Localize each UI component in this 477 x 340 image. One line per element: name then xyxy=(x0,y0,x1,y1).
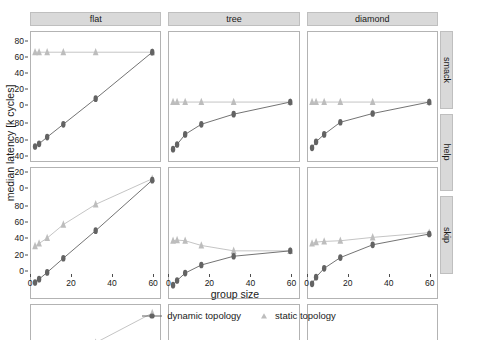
y-tick-mark xyxy=(25,171,28,172)
data-point-dynamic xyxy=(37,276,41,283)
y-tick-mark xyxy=(25,73,28,74)
data-point-dynamic xyxy=(175,277,179,284)
data-point-dynamic xyxy=(232,111,236,118)
chart-figure: median latency [k cycles] flat tree diam… xyxy=(0,0,477,340)
series-line-static xyxy=(35,179,152,246)
series-line-static xyxy=(173,240,290,251)
data-point-static xyxy=(44,48,50,55)
data-point-dynamic xyxy=(175,141,179,148)
data-point-static xyxy=(36,48,42,55)
y-tick-mark xyxy=(25,254,28,255)
data-point-static xyxy=(313,98,319,105)
y-tick-mark xyxy=(25,270,28,271)
legend-item-static: static topology xyxy=(257,310,336,321)
data-point-dynamic xyxy=(93,95,97,102)
data-point-dynamic xyxy=(370,110,374,117)
y-tick-mark xyxy=(25,238,28,239)
panel-tree-smack xyxy=(168,31,299,162)
y-tick-mark xyxy=(25,89,28,90)
panel-tree-help xyxy=(168,167,299,298)
data-point-dynamic xyxy=(322,131,326,138)
data-point-dynamic xyxy=(370,242,374,249)
data-point-dynamic xyxy=(427,231,431,238)
legend-key-circle-icon xyxy=(141,311,163,321)
chart-legend: dynamic topology static topology xyxy=(0,310,477,321)
data-point-dynamic xyxy=(171,146,175,153)
y-tick-mark xyxy=(25,139,28,140)
data-point-dynamic xyxy=(338,119,342,126)
data-point-static xyxy=(175,236,181,243)
series-line-dynamic xyxy=(312,102,429,148)
data-point-dynamic xyxy=(288,248,292,255)
y-tick-label: 0 xyxy=(19,100,24,110)
y-tick-mark xyxy=(25,105,28,106)
y-tick-mark xyxy=(25,56,28,57)
legend-label-dynamic: dynamic topology xyxy=(167,310,241,321)
row-strip-label: smack xyxy=(442,57,452,83)
data-point-dynamic xyxy=(33,143,37,150)
data-point-dynamic xyxy=(314,138,318,145)
data-point-dynamic xyxy=(61,121,65,128)
column-strip-label: diamond xyxy=(355,14,390,24)
y-tick-mark xyxy=(25,188,28,189)
x-axis-title: group size xyxy=(30,288,440,300)
column-strip-diamond: diamond xyxy=(307,12,438,26)
y-tick-mark xyxy=(25,123,28,124)
data-point-static xyxy=(36,239,42,246)
series-line-static xyxy=(312,233,429,244)
data-point-dynamic xyxy=(45,134,49,141)
data-point-static xyxy=(93,48,99,55)
row-strip-skip: skip xyxy=(440,196,453,274)
y-tick-mark xyxy=(25,222,28,223)
panel-diamond-help xyxy=(307,167,438,298)
data-point-static xyxy=(60,48,66,55)
y-axis-title-text: median latency [k cycles] xyxy=(4,84,16,201)
data-point-dynamic xyxy=(338,255,342,262)
data-point-dynamic xyxy=(150,49,154,56)
data-point-dynamic xyxy=(45,269,49,276)
data-point-dynamic xyxy=(150,177,154,184)
panel-diamond-smack xyxy=(307,31,438,162)
row-strip-label: help xyxy=(442,144,452,161)
data-point-dynamic xyxy=(183,270,187,277)
data-point-dynamic xyxy=(33,279,37,286)
panel-flat-help xyxy=(30,167,161,298)
data-point-dynamic xyxy=(322,265,326,272)
data-point-static xyxy=(231,98,237,105)
row-strip-label: skip xyxy=(442,227,452,243)
column-strip-label: flat xyxy=(90,14,102,24)
series-line-dynamic xyxy=(173,102,290,149)
data-point-dynamic xyxy=(427,99,431,106)
y-tick-label: 0 xyxy=(19,183,24,193)
y-tick-label: 0 xyxy=(19,266,24,276)
data-point-static xyxy=(369,98,375,105)
data-point-dynamic xyxy=(37,140,41,147)
y-axis-title: median latency [k cycles] xyxy=(2,0,18,285)
row-strips: smack help skip xyxy=(440,31,453,274)
column-strip-flat: flat xyxy=(30,12,161,26)
data-point-static xyxy=(175,98,181,105)
x-axis-title-text: group size xyxy=(211,288,259,300)
data-point-dynamic xyxy=(232,253,236,260)
panel-flat-smack xyxy=(30,31,161,162)
data-point-static xyxy=(44,234,50,241)
data-point-dynamic xyxy=(93,228,97,235)
column-strip-tree: tree xyxy=(168,12,299,26)
data-point-static xyxy=(60,221,66,228)
column-strip-label: tree xyxy=(226,14,242,24)
row-strip-smack: smack xyxy=(440,31,453,109)
data-point-dynamic xyxy=(288,99,292,106)
data-point-dynamic xyxy=(183,131,187,138)
y-tick-mark xyxy=(25,206,28,207)
legend-label-static: static topology xyxy=(275,310,336,321)
y-tick-mark xyxy=(25,40,28,41)
legend-key-triangle-icon xyxy=(257,311,271,321)
facet-grid: flat tree diamond xyxy=(30,12,438,274)
data-point-dynamic xyxy=(310,144,314,151)
row-strip-help: help xyxy=(440,114,453,192)
data-point-dynamic xyxy=(314,274,318,281)
data-point-dynamic xyxy=(310,281,314,288)
data-point-static xyxy=(183,98,189,105)
data-point-static xyxy=(337,98,343,105)
data-point-dynamic xyxy=(199,121,203,128)
